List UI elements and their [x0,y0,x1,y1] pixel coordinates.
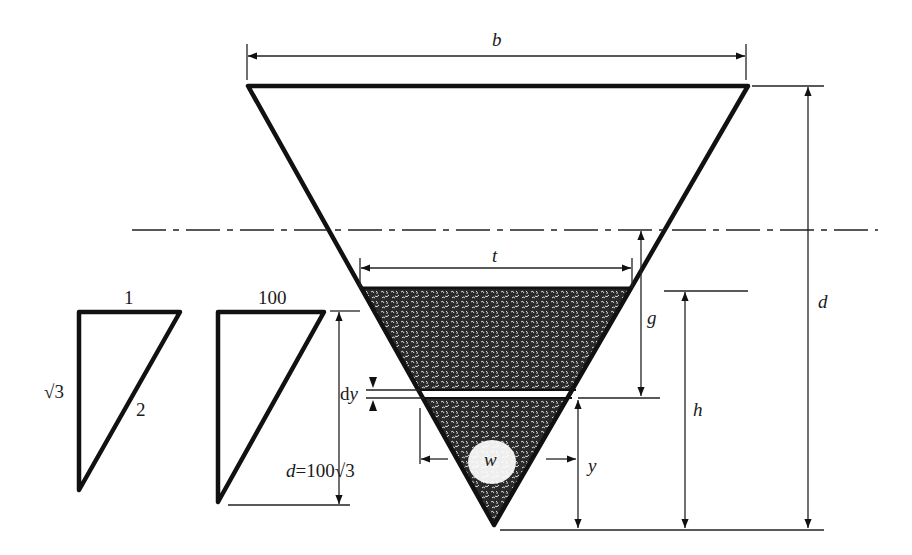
dy-arrow-bottom [369,400,377,411]
small-triangle-hyp-label: 2 [136,399,146,420]
dy-label: dy [340,383,359,404]
g-label: g [647,307,657,328]
reference-triangle-small [79,312,180,490]
t-label: t [492,245,498,266]
scaled-triangle-top-label: 100 [258,287,287,308]
scaled-triangle-depth-label: d=100√3 [286,460,355,481]
b-label: b [492,29,502,50]
d-label: d [818,291,828,312]
y-label: y [586,455,597,476]
small-triangle-side-label: √3 [44,381,64,402]
w-label: w [484,449,497,470]
dy-arrow-top [369,377,377,388]
small-triangle-top-label: 1 [124,287,134,308]
h-label: h [693,399,703,420]
diagram-canvas: b t g h d y w dy 1 2 √3 100 d=100√3 [0,0,912,555]
